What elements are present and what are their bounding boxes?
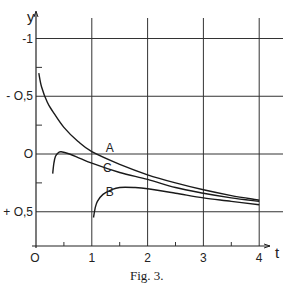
y-axis-label: y (27, 8, 35, 25)
y-tick-label: O (24, 147, 33, 161)
y-tick-label: - O,5 (6, 89, 33, 103)
x-tick-label: 1 (88, 251, 95, 265)
axes (32, 11, 270, 248)
curve-label-c: C (103, 161, 112, 175)
x-tick-label: O (30, 251, 39, 265)
x-tick-label: 4 (256, 251, 263, 265)
curve-c (53, 152, 260, 202)
x-tick-label: 2 (144, 251, 151, 265)
curves (39, 73, 259, 217)
grid (36, 18, 283, 246)
line-chart: O1234-1- O,5O+ O,5 ACB t y Fig. 3. (0, 0, 297, 285)
tick-labels: O1234-1- O,5O+ O,5 (3, 32, 263, 266)
curve-b (94, 187, 260, 217)
y-tick-label: -1 (22, 32, 33, 46)
curve-label-a: A (106, 141, 114, 155)
figure-caption: Fig. 3. (130, 268, 164, 283)
x-tick-label: 3 (200, 251, 207, 265)
x-axis-label: t (275, 244, 280, 261)
curve-a (39, 73, 259, 200)
curve-label-b: B (106, 185, 114, 199)
y-tick-label: + O,5 (3, 205, 33, 219)
